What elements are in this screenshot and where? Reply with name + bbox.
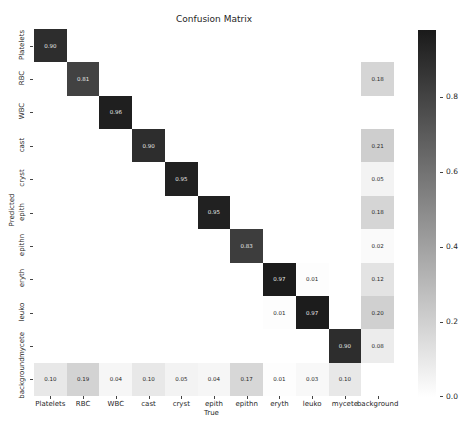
heatmap-cell: 0.10 [34, 363, 67, 396]
heatmap-cell: 0.18 [361, 62, 394, 95]
x-tick-mark [279, 396, 280, 399]
y-axis-label: Predicted [8, 194, 16, 227]
heatmap-cell: 0.90 [34, 29, 67, 62]
heatmap-grid: 0.900.810.180.960.900.210.950.050.950.18… [34, 29, 394, 396]
y-tick-mark [30, 79, 33, 80]
colorbar-tick-label: 0.6 [440, 167, 458, 176]
x-tick-mark [378, 396, 379, 399]
x-tick-mark [345, 396, 346, 399]
heatmap-cell: 0.95 [165, 162, 198, 195]
colorbar [418, 30, 436, 397]
confusion-matrix-chart: Confusion Matrix 0.900.810.180.960.900.2… [0, 0, 473, 433]
x-tick-mark [149, 396, 150, 399]
heatmap-cell: 0.20 [361, 296, 394, 329]
heatmap-cell: 0.10 [329, 363, 362, 396]
heatmap-cell: 0.05 [361, 162, 394, 195]
heatmap-cell: 0.19 [67, 363, 100, 396]
colorbar-tick-label: 0.4 [440, 242, 458, 251]
heatmap-cell: 0.05 [165, 363, 198, 396]
y-tick-mark [30, 213, 33, 214]
heatmap-cell: 0.17 [230, 363, 263, 396]
colorbar-tick-label: 0.2 [440, 317, 458, 326]
x-tick-mark [83, 396, 84, 399]
x-tick-mark [214, 396, 215, 399]
y-tick-mark [30, 313, 33, 314]
heatmap-cell: 0.90 [132, 129, 165, 162]
heatmap-cell: 0.81 [67, 62, 100, 95]
heatmap-cell: 0.83 [230, 229, 263, 262]
heatmap-cell: 0.01 [263, 296, 296, 329]
heatmap-cell: 0.96 [99, 96, 132, 129]
heatmap-cell: 0.21 [361, 129, 394, 162]
y-tick-mark [30, 112, 33, 113]
heatmap-cell: 0.90 [329, 329, 362, 362]
colorbar-tick-label: 0.8 [440, 92, 458, 101]
heatmap-cell: 0.95 [198, 196, 231, 229]
x-axis-label: True [204, 409, 219, 417]
heatmap-cell: 0.97 [263, 263, 296, 296]
x-tick-mark [312, 396, 313, 399]
heatmap-cell: 0.03 [296, 363, 329, 396]
y-tick-mark [30, 179, 33, 180]
heatmap-cell: 0.01 [296, 263, 329, 296]
y-tick-mark [30, 279, 33, 280]
x-tick-mark [181, 396, 182, 399]
y-tick-mark [30, 146, 33, 147]
x-tick-mark [247, 396, 248, 399]
heatmap-cell: 0.12 [361, 263, 394, 296]
heatmap-cell: 0.10 [132, 363, 165, 396]
y-tick-mark [30, 46, 33, 47]
y-tick-mark [30, 346, 33, 347]
heatmap-cell: 0.01 [263, 363, 296, 396]
y-tick-mark [30, 246, 33, 247]
x-tick-label: background [348, 400, 408, 408]
heatmap-cell: 0.97 [296, 296, 329, 329]
heatmap-cell: 0.04 [99, 363, 132, 396]
colorbar-tick-label: 0.0 [440, 392, 458, 401]
heatmap-cell: 0.04 [198, 363, 231, 396]
y-tick-mark [30, 379, 33, 380]
chart-title: Confusion Matrix [34, 14, 394, 24]
x-tick-mark [50, 396, 51, 399]
x-tick-mark [116, 396, 117, 399]
heatmap-cell: 0.18 [361, 196, 394, 229]
heatmap-cell: 0.08 [361, 329, 394, 362]
heatmap-cell: 0.02 [361, 229, 394, 262]
